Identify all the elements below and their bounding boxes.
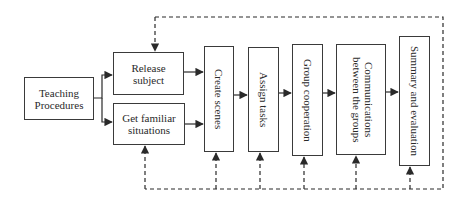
edge-start-to-familiar: [102, 98, 112, 122]
node-label: Release subject: [114, 62, 183, 86]
node-label: Get familiar situations: [114, 112, 184, 136]
edge-start-to-release: [94, 75, 112, 98]
node-label: Assign tasks: [258, 72, 270, 127]
node-communications-between-groups: Communications between the groups: [336, 44, 386, 155]
node-summary-and-evaluation: Summary and evaluation: [399, 36, 430, 166]
node-teaching-procedures: Teaching Procedures: [24, 77, 94, 120]
node-get-familiar-situations: Get familiar situations: [113, 103, 185, 145]
node-label: Summary and evaluation: [409, 46, 421, 156]
node-label: Create scenes: [213, 69, 225, 129]
node-label: Teaching Procedures: [25, 87, 93, 111]
node-assign-tasks: Assign tasks: [248, 47, 279, 152]
node-label: Communications between the groups: [347, 52, 375, 148]
node-label: Group cooperation: [302, 59, 314, 142]
node-release-subject: Release subject: [113, 52, 184, 95]
node-create-scenes: Create scenes: [204, 46, 234, 152]
node-group-cooperation: Group cooperation: [292, 44, 323, 156]
